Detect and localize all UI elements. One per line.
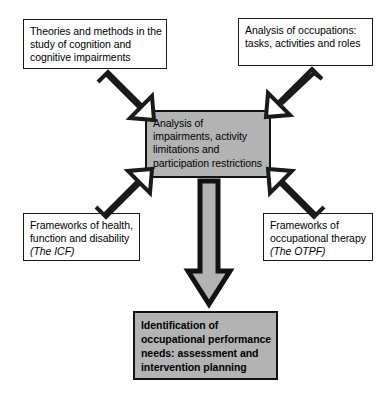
occupations-line-2: tasks, activities and roles [245,37,366,50]
otpf-line-2: occupational therapy [270,232,366,245]
outcome-line-1: Identification of [141,318,270,332]
otpf-line-1: Frameworks of [270,219,366,232]
center-line-2: impairments, activity [153,130,263,143]
outcome-line-2: occupational performance [141,332,270,346]
occupations-line-1: Analysis of occupations: [245,24,366,37]
outcome-line-4: intervention planning [141,360,270,374]
theories-line-3: cognitive impairments [30,51,160,64]
otpf-source-label: (The OTPF) [270,245,366,258]
arrow-theories-to-center-icon [92,72,164,120]
theories-line-2: study of cognition and [30,38,160,51]
theories-and-methods-box: Theories and methods in the study of cog… [23,19,167,69]
arrow-icf-to-center-icon [90,168,162,218]
center-line-4: participation restrictions [153,157,263,170]
theories-line-1: Theories and methods in the [30,25,160,38]
center-line-1: Analysis of [153,117,263,130]
frameworks-of-occupational-therapy-box: Frameworks of occupational therapy (The … [263,213,373,261]
frameworks-of-health-box: Frameworks of health, function and disab… [23,213,140,261]
center-line-3: limitations and [153,143,263,156]
icf-source-label: (The ICF) [30,245,133,258]
outcome-line-3: needs: assessment and [141,346,270,360]
analysis-of-occupations-box: Analysis of occupations: tasks, activiti… [238,18,373,66]
icf-line-1: Frameworks of health, [30,219,133,232]
arrow-occupations-to-center-icon [258,68,328,118]
diagram-canvas: Theories and methods in the study of cog… [0,0,390,398]
arrow-center-to-outcome-icon [185,178,233,308]
arrow-otpf-to-center-icon [258,168,330,218]
central-analysis-box: Analysis of impairments, activity limita… [145,110,271,178]
outcome-identification-box: Identification of occupational performan… [133,311,278,380]
icf-line-2: function and disability [30,232,133,245]
